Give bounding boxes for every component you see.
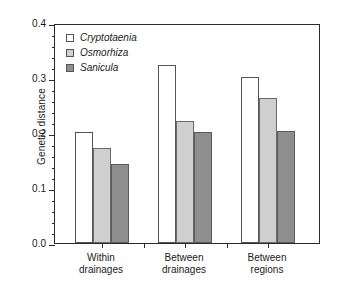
x-axis-category-label: Withindrainages [56,252,146,276]
y-axis-minor-tick [52,91,56,92]
bar [277,131,295,243]
y-axis-minor-tick [52,234,56,235]
y-axis-minor-tick [52,58,56,59]
y-axis-major-tick [49,135,55,136]
x-axis-category-label: Betweendrainages [139,252,229,276]
y-axis-major-tick [49,245,55,246]
legend-swatch-icon [66,49,74,57]
bar [259,98,277,243]
y-axis-tick-label: 0.0 [18,239,46,249]
y-axis-minor-tick [52,157,56,158]
bar [75,132,93,243]
x-axis-category-line: regions [222,264,312,276]
y-axis-minor-tick [52,201,56,202]
x-axis-category-line: Between [139,252,229,264]
y-axis-tick-label: 0.3 [18,74,46,84]
bar [111,164,129,243]
y-axis-tick-labels: 0.00.10.20.30.4 [18,0,46,293]
y-axis-minor-tick [52,47,56,48]
y-axis-minor-tick [52,69,56,70]
x-axis-tick [185,243,186,248]
x-axis-tick [144,243,145,248]
legend-label: Sanicula [80,62,118,73]
y-axis-minor-tick [52,223,56,224]
y-axis-major-tick [49,25,55,26]
y-axis-minor-tick [52,113,56,114]
x-axis-tick [102,243,103,248]
y-axis-minor-tick [52,179,56,180]
y-axis-tick-label: 0.2 [18,129,46,139]
x-axis-category-line: drainages [139,264,229,276]
x-axis-category-label: Betweenregions [222,252,312,276]
y-axis-minor-tick [52,212,56,213]
bar [241,77,259,243]
legend-item: Cryptotaenia [66,31,137,44]
legend-item: Sanicula [66,61,137,74]
y-axis-minor-tick [52,146,56,147]
bar [194,132,212,243]
y-axis-minor-tick [52,124,56,125]
x-axis-category-line: Within [56,252,146,264]
x-axis-tick [227,243,228,248]
legend-swatch-icon [66,64,74,72]
x-axis-tick [268,243,269,248]
legend-label: Osmorhiza [80,47,128,58]
y-axis-tick-label: 0.1 [18,184,46,194]
bar [93,148,111,243]
legend: CryptotaeniaOsmorhizaSanicula [66,31,137,76]
y-axis-tick-label: 0.4 [18,19,46,29]
legend-swatch-icon [66,34,74,42]
y-axis-major-tick [49,80,55,81]
bar [176,121,194,243]
bar-chart-figure: Genetic distance 0.00.10.20.30.4 Withind… [0,0,338,293]
legend-label: Cryptotaenia [80,32,137,43]
y-axis-minor-tick [52,36,56,37]
y-axis-major-tick [49,190,55,191]
y-axis-minor-tick [52,168,56,169]
x-axis-category-line: drainages [56,264,146,276]
y-axis-minor-tick [52,102,56,103]
bar [158,65,176,243]
legend-item: Osmorhiza [66,46,137,59]
x-axis-category-line: Between [222,252,312,264]
